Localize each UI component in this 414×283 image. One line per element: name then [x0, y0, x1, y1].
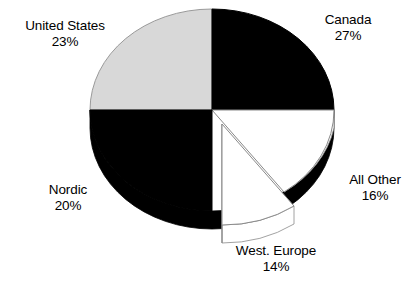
- pie-label-nordic-value: 20%: [26, 198, 110, 214]
- pie-label-nordic: Nordic 20%: [26, 182, 110, 213]
- pie-label-canada: Canada 27%: [300, 12, 396, 43]
- pie-label-all-other-value: 16%: [338, 188, 412, 204]
- pie-label-west-europe-value: 14%: [214, 259, 338, 275]
- pie-label-united-states: United States 23%: [6, 18, 124, 49]
- pie-label-west-europe: West. Europe 14%: [214, 243, 338, 274]
- pie-label-west-europe-name: West. Europe: [214, 243, 338, 259]
- pie-label-all-other-name: All Other: [338, 172, 412, 188]
- pie-label-united-states-name: United States: [6, 18, 124, 34]
- chart-page: ........................ Un: [0, 0, 414, 283]
- pie-label-nordic-name: Nordic: [26, 182, 110, 198]
- pie-label-canada-name: Canada: [300, 12, 396, 28]
- pie-label-united-states-value: 23%: [6, 34, 124, 50]
- pie-label-all-other: All Other 16%: [338, 172, 412, 203]
- pie-label-canada-value: 27%: [300, 28, 396, 44]
